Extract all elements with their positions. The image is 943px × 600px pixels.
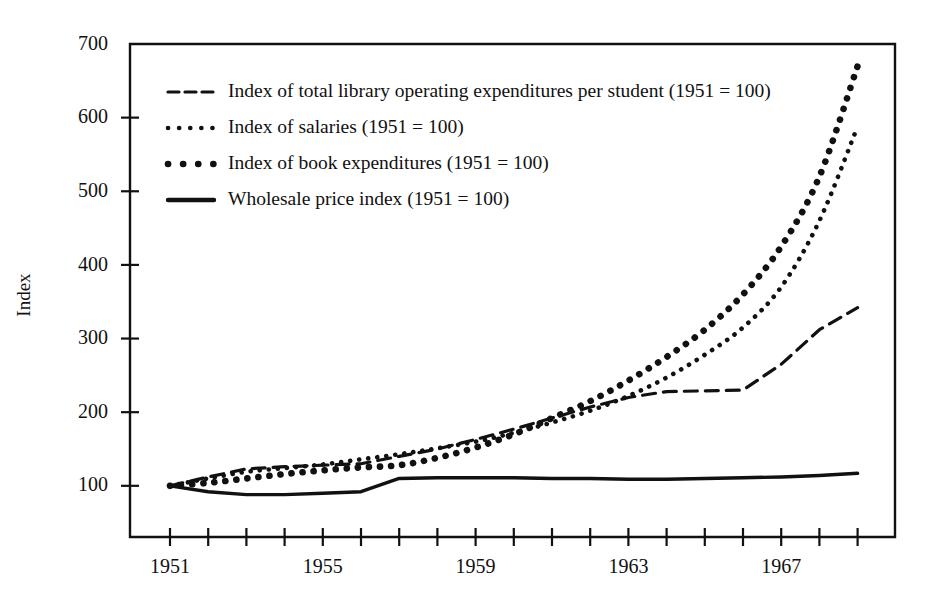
y-tick-label: 200 — [78, 400, 108, 422]
y-tick-label: 700 — [78, 32, 108, 54]
series-line-0 — [170, 308, 858, 486]
y-tick-label: 400 — [78, 253, 108, 275]
y-axis-title: Index — [13, 273, 34, 317]
chart-figure: 100200300400500600700 195119551959196319… — [0, 0, 943, 600]
y-tick-label: 300 — [78, 326, 108, 348]
x-tick-label: 1955 — [303, 555, 343, 577]
x-tick-label: 1967 — [761, 555, 801, 577]
legend-label-3: Wholesale price index (1951 = 100) — [228, 188, 509, 210]
series-line-1 — [170, 126, 858, 485]
x-tick-label: 1951 — [150, 555, 190, 577]
y-tick-label: 100 — [78, 473, 108, 495]
y-tick-label: 500 — [78, 179, 108, 201]
chart-legend: Index of total library operating expendi… — [168, 80, 771, 210]
x-axis-tick-labels: 19511955195919631967 — [150, 555, 801, 577]
index-line-chart: 100200300400500600700 195119551959196319… — [0, 0, 943, 600]
x-tick-label: 1963 — [608, 555, 648, 577]
series-line-3 — [170, 473, 858, 494]
y-tick-label: 600 — [78, 105, 108, 127]
x-tick-label: 1959 — [456, 555, 496, 577]
legend-label-0: Index of total library operating expendi… — [228, 80, 771, 102]
legend-label-2: Index of book expenditures (1951 = 100) — [228, 152, 549, 174]
y-axis-tick-labels: 100200300400500600700 — [78, 32, 108, 496]
legend-label-1: Index of salaries (1951 = 100) — [228, 116, 464, 138]
